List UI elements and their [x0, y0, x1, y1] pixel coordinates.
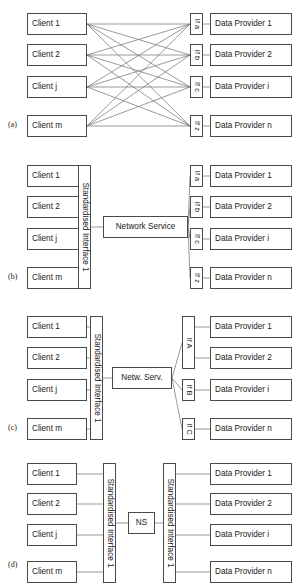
provider-box-1[interactable]: Data Provider 1	[210, 13, 292, 35]
client-box-2[interactable]: Client 2	[27, 347, 87, 369]
client-box-3[interactable]: Client j	[27, 524, 77, 546]
interface-label: If z	[193, 273, 200, 283]
network-service-box[interactable]: NS	[128, 512, 155, 534]
panel-a: (a) Client 1 Client 2 Client j Client m …	[0, 0, 298, 148]
client-box-4[interactable]: Client m	[27, 418, 87, 440]
interface-label: If c	[193, 82, 200, 92]
interface-box-if-a[interactable]: If a	[190, 13, 203, 35]
provider-box-3[interactable]: Data Provider i	[210, 76, 292, 98]
provider-box-3[interactable]: Data Provider i	[210, 379, 292, 401]
interface-label: If a	[193, 19, 200, 29]
client-box-4[interactable]: Client m	[27, 561, 77, 583]
standardised-interface-bar-right[interactable]: Standardised Interface 1	[163, 463, 176, 583]
standardised-interface-bar[interactable]: Standardised Interface 1	[78, 165, 91, 289]
network-service-box[interactable]: Netw. Serv.	[112, 367, 172, 389]
interface-group-box-if-b[interactable]: If B	[182, 379, 195, 401]
client-box-2[interactable]: Client 2	[27, 44, 87, 66]
standardised-interface-bar-left[interactable]: Standardised Interface 1	[103, 463, 116, 583]
interface-label: If B	[185, 384, 192, 395]
standardised-interface-bar[interactable]: Standardised Interface 1	[90, 316, 103, 440]
provider-box-4[interactable]: Data Provider n	[210, 115, 292, 137]
client-box-1[interactable]: Client 1	[27, 13, 87, 35]
interface-box-if-b[interactable]: If b	[190, 196, 203, 218]
interface-label: If b	[193, 202, 200, 212]
provider-box-1[interactable]: Data Provider 1	[210, 463, 292, 485]
provider-box-3[interactable]: Data Provider i	[210, 524, 292, 546]
interface-group-box-if-c[interactable]: If C	[182, 418, 195, 440]
provider-box-2[interactable]: Data Provider 2	[210, 347, 292, 369]
interface-label: If A	[185, 337, 192, 348]
client-box-3[interactable]: Client j	[27, 76, 87, 98]
provider-box-1[interactable]: Data Provider 1	[210, 165, 292, 187]
interface-box-if-c[interactable]: If c	[190, 228, 203, 250]
provider-box-2[interactable]: Data Provider 2	[210, 196, 292, 218]
client-box-1[interactable]: Client 1	[27, 463, 77, 485]
client-box-4[interactable]: Client m	[27, 115, 87, 137]
provider-box-2[interactable]: Data Provider 2	[210, 44, 292, 66]
client-box-2[interactable]: Client 2	[27, 493, 77, 515]
interface-box-if-z[interactable]: If z	[190, 267, 203, 289]
panel-c: (c) Client 1 Client 2 Client j Client m …	[0, 303, 298, 451]
client-box-1[interactable]: Client 1	[27, 316, 87, 338]
standardised-interface-label: Standardised Interface 1	[92, 333, 100, 422]
client-box-3[interactable]: Client j	[27, 379, 87, 401]
provider-box-1[interactable]: Data Provider 1	[210, 316, 292, 338]
interface-label: If a	[193, 171, 200, 181]
interface-label: If c	[193, 234, 200, 244]
provider-box-4[interactable]: Data Provider n	[210, 561, 292, 583]
standardised-interface-label: Standardised Interface 1	[80, 182, 88, 271]
provider-box-4[interactable]: Data Provider n	[210, 418, 292, 440]
interface-label: If b	[193, 50, 200, 60]
network-service-box[interactable]: Network Service	[103, 216, 188, 238]
panel-b: (b) Client 1 Client 2 Client j Client m …	[0, 152, 298, 300]
panel-d: (d) Client 1 Client 2 Client j Client m …	[0, 452, 298, 588]
provider-box-3[interactable]: Data Provider i	[210, 228, 292, 250]
standardised-interface-label: Standardised Interface 1	[105, 478, 113, 567]
provider-box-2[interactable]: Data Provider 2	[210, 493, 292, 515]
interface-box-if-c[interactable]: If c	[190, 76, 203, 98]
provider-box-4[interactable]: Data Provider n	[210, 267, 292, 289]
interface-label: If C	[185, 423, 192, 435]
interface-box-if-a[interactable]: If a	[190, 165, 203, 187]
interface-box-if-b[interactable]: If b	[190, 44, 203, 66]
interface-group-box-if-a[interactable]: If A	[182, 316, 195, 369]
standardised-interface-label: Standardised Interface 1	[165, 478, 173, 567]
interface-label: If z	[193, 121, 200, 131]
interface-box-if-z[interactable]: If z	[190, 115, 203, 137]
